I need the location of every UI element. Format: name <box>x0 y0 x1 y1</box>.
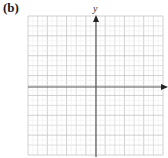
coordinate-grid <box>0 0 168 158</box>
x-axis-arrow-icon <box>161 84 168 90</box>
y-axis-label: y <box>93 4 97 14</box>
